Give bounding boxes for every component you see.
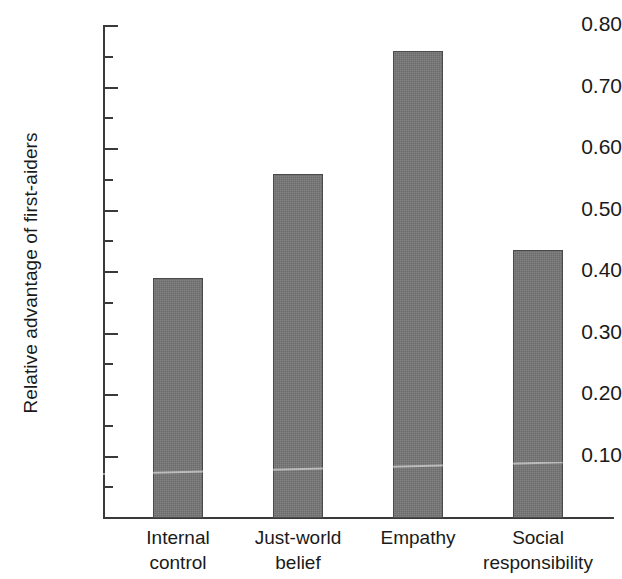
plot-area [0, 0, 622, 519]
bar-chart: Relative advantage of first-aiders 0.100… [0, 0, 622, 579]
x-category-label-line: belief [213, 550, 383, 575]
bar [153, 278, 203, 518]
bar [273, 174, 323, 518]
bar [513, 250, 563, 518]
x-category-label: Socialresponsibility [453, 525, 622, 575]
bar [393, 51, 443, 518]
x-category-label-line: Social [453, 525, 622, 550]
x-category-label-line: responsibility [453, 550, 622, 575]
